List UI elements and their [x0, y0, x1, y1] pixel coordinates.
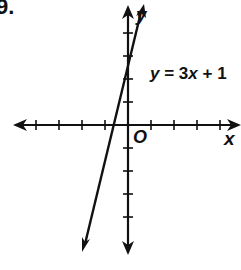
equation-rest: + 1	[198, 64, 227, 83]
equation-label: y = 3x + 1	[150, 64, 227, 84]
equation-eq: = 3	[159, 64, 188, 83]
coordinate-plane	[0, 0, 241, 270]
y-axis-label: y	[136, 4, 147, 26]
equation-var: x	[188, 64, 197, 83]
x-axis-label: x	[224, 128, 235, 150]
origin-label: O	[133, 127, 147, 148]
